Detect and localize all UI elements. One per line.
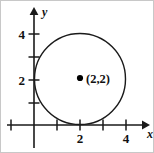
graph-canvas: 4 2 2 4 y x (2,2) xyxy=(1,1,154,153)
y-tick-label-2: 2 xyxy=(19,73,26,88)
y-tick-label-4: 4 xyxy=(19,27,26,42)
x-tick-label-4: 4 xyxy=(123,131,130,146)
x-axis-label: x xyxy=(146,127,153,141)
coordinate-plane-figure: 4 2 2 4 y x (2,2) xyxy=(0,0,154,153)
y-axis-label: y xyxy=(40,5,48,19)
x-tick-label-2: 2 xyxy=(77,131,84,146)
center-point-dot xyxy=(77,75,83,81)
center-point-label: (2,2) xyxy=(86,72,110,86)
y-axis-arrow-icon xyxy=(30,7,39,15)
